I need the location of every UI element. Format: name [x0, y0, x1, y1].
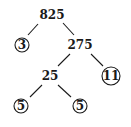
tree-edge-n825-n3: [28, 24, 38, 35]
tree-node-n25: 25: [42, 69, 59, 83]
node-label: 3: [18, 38, 26, 52]
tree-node-n5a: 5: [14, 99, 28, 113]
node-label: 11: [103, 69, 120, 83]
tree-node-n275: 275: [67, 38, 92, 52]
tree-edge-n25-n5a: [30, 85, 42, 97]
tree-node-n825: 825: [39, 8, 64, 22]
tree-node-n5b: 5: [73, 99, 87, 113]
tree-edge-n825-n275: [63, 23, 74, 35]
tree-edge-n25-n5b: [58, 85, 71, 97]
node-label: 25: [42, 69, 59, 83]
node-label: 5: [17, 99, 25, 113]
tree-node-n3: 3: [15, 38, 29, 52]
factor-tree-diagram: 8253275251155: [0, 0, 131, 127]
tree-node-n11: 11: [102, 67, 120, 85]
node-label: 825: [39, 8, 64, 22]
node-label: 275: [67, 38, 92, 52]
tree-edge-n275-n11: [91, 54, 103, 66]
node-label: 5: [76, 99, 84, 113]
tree-edge-n275-n25: [58, 54, 70, 66]
